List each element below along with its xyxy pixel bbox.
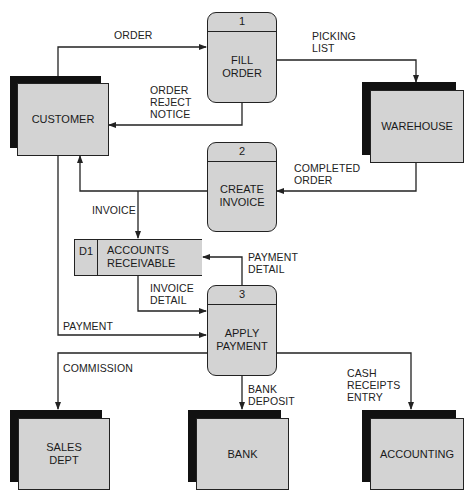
label-payment-detail: PAYMENT DETAIL: [248, 251, 298, 275]
label-order: ORDER: [114, 29, 152, 41]
process-label: CREATE INVOICE: [208, 161, 276, 231]
entity-accounting: ACCOUNTING: [362, 410, 464, 490]
datastore-label: ACCOUNTS RECEIVABLE: [107, 244, 175, 270]
entity-customer: CUSTOMER: [10, 76, 109, 156]
process-number: 3: [208, 286, 276, 305]
entity-bank: BANK: [188, 410, 289, 490]
label-invoice: INVOICE: [92, 204, 136, 216]
label-order-reject-notice: ORDER REJECT NOTICE: [150, 84, 191, 120]
entity-accounting-label: ACCOUNTING: [370, 418, 464, 490]
flow-payment-detail: [203, 257, 242, 285]
entity-warehouse: WAREHOUSE: [362, 82, 464, 163]
process-fill-order: 1 FILL ORDER: [207, 12, 277, 103]
label-bank-deposit: BANK DEPOSIT: [248, 383, 295, 407]
flow-picking-list: [276, 60, 416, 82]
entity-bank-label: BANK: [196, 418, 289, 490]
flow-order: [58, 47, 206, 76]
entity-sales-dept-label: SALES DEPT: [18, 418, 110, 490]
datastore-accounts-receivable: D1 ACCOUNTS RECEIVABLE: [74, 239, 202, 276]
process-label: APPLY PAYMENT: [208, 304, 276, 375]
label-picking-list: PICKING LIST: [312, 30, 356, 54]
label-payment: PAYMENT: [63, 320, 113, 332]
datastore-id: D1: [75, 240, 98, 275]
label-invoice-detail: INVOICE DETAIL: [150, 282, 194, 306]
process-label: FILL ORDER: [208, 31, 276, 102]
process-apply-payment: 3 APPLY PAYMENT: [207, 285, 277, 376]
label-commission: COMMISSION: [63, 362, 133, 374]
entity-customer-label: CUSTOMER: [17, 83, 109, 156]
flow-invoice-to-customer: [80, 156, 207, 191]
process-create-invoice: 2 CREATE INVOICE: [207, 142, 277, 232]
label-completed-order: COMPLETED ORDER: [294, 162, 360, 186]
label-cash-receipts-entry: CASH RECEIPTS ENTRY: [347, 367, 400, 403]
process-number: 2: [208, 143, 276, 162]
entity-sales-dept: SALES DEPT: [10, 410, 110, 490]
process-number: 1: [208, 13, 276, 32]
entity-warehouse-label: WAREHOUSE: [370, 90, 464, 163]
